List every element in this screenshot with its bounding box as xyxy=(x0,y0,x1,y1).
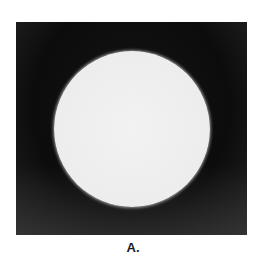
bright-disc xyxy=(54,51,210,207)
panel-label: A. xyxy=(0,240,266,255)
figure-photo xyxy=(16,22,247,235)
